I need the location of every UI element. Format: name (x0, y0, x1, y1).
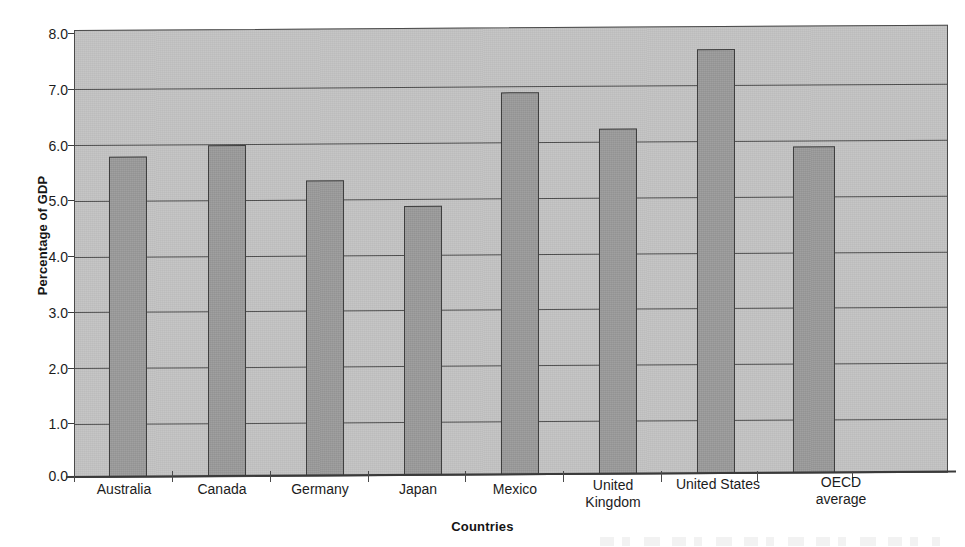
bar-canada (208, 145, 246, 477)
plot-area (74, 25, 948, 478)
y-tick-label-0: 0.0 (22, 469, 68, 483)
x-tick-label-oecd-average: OECD average (786, 474, 896, 508)
y-tick-label-6: 6.0 (22, 139, 68, 153)
bar-mexico (501, 92, 539, 475)
y-tick-label-2: 2.0 (22, 362, 68, 376)
bar-australia (109, 157, 147, 478)
bar-chart-figure: Percentage of GDP 8.0 7.0 6.0 5.0 4.0 3.… (0, 0, 965, 547)
x-tick-label-australia: Australia (68, 481, 180, 498)
y-tick-label-3: 3.0 (22, 306, 68, 320)
bar-united-kingdom (599, 129, 637, 475)
y-tick-label-1: 1.0 (22, 417, 68, 431)
y-tick-label-5: 5.0 (22, 194, 68, 208)
y-tick-label-4: 4.0 (22, 250, 68, 264)
bar-japan (404, 206, 442, 476)
x-tick-label-canada: Canada (168, 481, 276, 498)
bar-oecd-average (793, 146, 835, 473)
gridline-7 (75, 84, 947, 90)
x-tick-label-united-states: United States (648, 476, 788, 493)
x-axis-title: Countries (0, 519, 965, 534)
bar-united-states (697, 49, 735, 474)
y-tick-label-8: 8.0 (22, 27, 68, 41)
x-tick-label-mexico: Mexico (460, 481, 570, 498)
y-axis-tick-labels: 8.0 7.0 6.0 5.0 4.0 3.0 2.0 1.0 0.0 (20, 0, 68, 547)
bar-germany (306, 180, 344, 476)
caption-remnant (600, 537, 940, 546)
x-tick-label-germany: Germany (264, 481, 376, 498)
x-tick-label-japan: Japan (364, 481, 472, 498)
y-tick-label-7: 7.0 (22, 83, 68, 97)
